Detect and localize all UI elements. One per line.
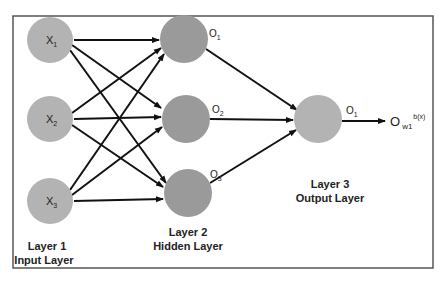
edge-x3-h1 [70, 54, 164, 190]
hidden-node-3 [164, 169, 212, 217]
layer1-subtitle: Input Layer [14, 254, 74, 266]
edge-x2-h2 [74, 117, 161, 119]
hidden-node-1 [160, 15, 208, 63]
output-node-1 [294, 95, 342, 143]
output-layer-nodes: O1 [294, 95, 358, 143]
edge-x2-h1 [72, 48, 161, 113]
neural-network-diagram: X1 X2 X3 O1 O2 O3 O1 Ow1b(x) Layer 1 Inp… [0, 0, 444, 282]
hidden-node-2 [162, 95, 210, 143]
layer3-subtitle: Output Layer [296, 192, 365, 204]
edge-h3-out [210, 130, 296, 183]
layer2-title: Layer 2 [169, 226, 208, 238]
layer3-title: Layer 3 [311, 178, 350, 190]
edge-x3-h3 [74, 199, 163, 201]
hidden-node-label: O2 [212, 104, 224, 117]
output-node-label: O1 [346, 105, 358, 118]
edge-h1-out [206, 49, 297, 110]
diagram-border [13, 16, 433, 268]
edge-x2-h3 [72, 125, 163, 187]
hidden-layer-nodes: O1 O2 O3 [160, 15, 224, 217]
edge-x3-h2 [72, 127, 162, 195]
input-layer-nodes: X1 X2 X3 [27, 17, 73, 224]
layer2-subtitle: Hidden Layer [153, 240, 223, 252]
layer1-title: Layer 1 [28, 240, 67, 252]
final-output-label: Ow1b(x) [390, 113, 425, 131]
hidden-node-label: O1 [209, 28, 221, 41]
edge-h2-out [210, 119, 293, 120]
